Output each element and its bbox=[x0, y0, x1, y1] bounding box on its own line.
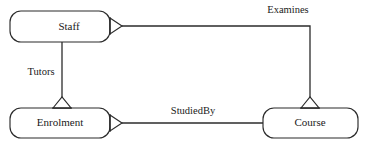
er-diagram-canvas: Staff Enrolment Course Examines Tutors S… bbox=[0, 0, 368, 148]
entity-staff-label: Staff bbox=[58, 20, 80, 32]
crowfoot-course-top bbox=[301, 97, 319, 108]
relationship-label-tutors: Tutors bbox=[27, 66, 54, 77]
crowfoot-enrolment-right bbox=[110, 115, 122, 131]
er-diagram-svg: Staff Enrolment Course Examines Tutors S… bbox=[0, 0, 368, 148]
entity-course-label: Course bbox=[294, 116, 325, 128]
relationship-label-studiedby: StudiedBy bbox=[171, 105, 216, 116]
relationship-label-examines: Examines bbox=[267, 4, 308, 15]
entity-enrolment-label: Enrolment bbox=[37, 116, 83, 128]
crowfoot-staff-right bbox=[110, 18, 122, 34]
crowfoot-enrolment-top bbox=[53, 97, 71, 108]
connector-examines bbox=[122, 26, 310, 103]
